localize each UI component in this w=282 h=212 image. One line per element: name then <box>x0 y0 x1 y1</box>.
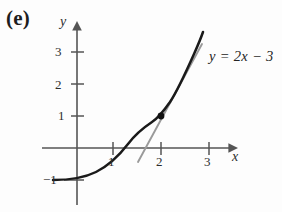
y-tick-label-2: 2 <box>55 78 62 91</box>
y-tick-label-minus-1: −1 <box>43 173 57 186</box>
x-tick-label-1: 1 <box>108 155 115 168</box>
tangency-point-marker <box>158 113 165 120</box>
x-tick-label-3: 3 <box>204 155 211 168</box>
figure-container: (e) y x 3 2 1 −1 1 2 3 y = 2x − 3 <box>0 0 282 212</box>
y-axis-label: y <box>60 15 66 29</box>
tangent-equation-label: y = 2x − 3 <box>209 49 273 64</box>
panel-label: (e) <box>6 8 30 29</box>
x-tick-label-2: 2 <box>156 155 163 168</box>
y-tick-label-1: 1 <box>58 109 65 122</box>
x-axis-label: x <box>232 150 238 164</box>
y-tick-label-3: 3 <box>55 45 62 58</box>
function-curve <box>53 32 203 180</box>
